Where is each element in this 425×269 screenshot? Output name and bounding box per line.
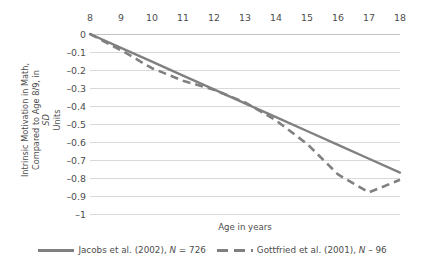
x-axis-title: Age in years [90,222,400,232]
gridline-m0.4 [90,106,400,107]
x-tick-label-18: 18 [387,12,413,23]
legend-label-jacobs-pre: Jacobs et al. (2002), [78,245,169,255]
y-axis-title-line2-pre: Compared to Age 8/9, in [31,70,42,170]
gridline-0 [90,34,400,35]
y-tick-label-m0.8: –0.8 [52,173,86,184]
y-tick-label-m0.2: –0.2 [52,65,86,76]
x-tick-label-15: 15 [294,12,320,23]
y-tick-label-m0.3: –0.3 [52,83,86,94]
chart-legend: Jacobs et al. (2002), N = 726 Gottfried … [0,245,425,255]
legend-item-jacobs: Jacobs et al. (2002), N = 726 [38,245,205,255]
x-tick-label-14: 14 [263,12,289,23]
y-tick-label-0: 0 [52,29,86,40]
series-line-gottfried [90,34,400,192]
x-tick-label-8: 8 [77,12,103,23]
x-tick-label-11: 11 [170,12,196,23]
chart-figure: Intrinsic Motivation in Math, Compared t… [0,0,425,269]
legend-label-gottfried-post: – 96 [365,245,386,255]
gridline-m0.1 [90,52,400,53]
x-tick-label-16: 16 [325,12,351,23]
gridline-m0.9 [90,196,400,197]
legend-item-gottfried: Gottfried et al. (2001), N – 96 [217,245,387,255]
gridline-m0.8 [90,178,400,179]
legend-label-jacobs: Jacobs et al. (2002), N = 726 [78,245,205,255]
x-tick-label-17: 17 [356,12,382,23]
gridline-m0.2 [90,70,400,71]
x-tick-label-12: 12 [201,12,227,23]
dashed-line-swatch [217,249,253,252]
gridline-m0.3 [90,88,400,89]
y-axis-title-line1: Intrinsic Motivation in Math, [20,63,31,177]
gridline-m0.6 [90,142,400,143]
x-tick-label-13: 13 [232,12,258,23]
x-tick-label-9: 9 [108,12,134,23]
y-tick-label-m0.4: –0.4 [52,101,86,112]
y-tick-label-m0.6: –0.6 [52,137,86,148]
legend-label-jacobs-post: = 726 [176,245,206,255]
y-tick-label-m0.9: –0.9 [52,191,86,202]
series-line-jacobs [90,34,400,173]
gridline-m0.7 [90,160,400,161]
y-tick-label-m0.7: –0.7 [52,155,86,166]
legend-label-gottfried: Gottfried et al. (2001), N – 96 [257,245,387,255]
y-tick-label-m1: –1 [52,209,86,220]
y-tick-label-m0.1: –0.1 [52,47,86,58]
y-axis-title-line2-italic: SD [41,114,51,126]
y-tick-label-m0.5: –0.5 [52,119,86,130]
x-tick-label-10: 10 [139,12,165,23]
gridline-m1 [90,214,400,215]
gridline-m0.5 [90,124,400,125]
solid-line-swatch [38,249,74,252]
legend-label-gottfried-pre: Gottfried et al. (2001), [257,245,359,255]
